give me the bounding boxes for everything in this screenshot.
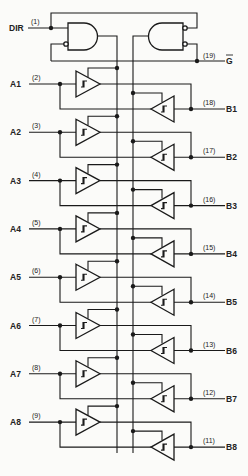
b-port-label: B7 bbox=[226, 394, 237, 404]
b-port-label: B5 bbox=[226, 297, 237, 307]
inverter-bubble bbox=[183, 42, 187, 46]
a-port-label: A4 bbox=[10, 224, 21, 234]
b-port-label: B3 bbox=[226, 201, 237, 211]
inverter-bubble bbox=[64, 42, 68, 46]
channels: A1(2)(18)B1A2(3)(17)B2A3(4)(16)B3A4(5)(1… bbox=[10, 66, 237, 460]
b-pin-number: (17) bbox=[203, 147, 215, 155]
a-pin-number: (2) bbox=[32, 74, 41, 82]
a-pin-number: (4) bbox=[32, 171, 41, 179]
a-pin-number: (5) bbox=[32, 219, 41, 227]
channel-6: A6(7)(13)B6 bbox=[10, 307, 237, 363]
a-port-label: A6 bbox=[10, 321, 21, 331]
and-gate-a-to-b bbox=[68, 23, 97, 50]
a-port-label: A5 bbox=[10, 272, 21, 282]
a-port-label: A8 bbox=[10, 417, 21, 427]
a-pin-number: (3) bbox=[32, 122, 41, 130]
a-port-label: A3 bbox=[10, 176, 21, 186]
b-port-label: B4 bbox=[226, 249, 237, 259]
b-pin-number: (16) bbox=[203, 196, 215, 204]
channel-2: A2(3)(17)B2 bbox=[10, 114, 237, 170]
channel-7: A7(8)(12)B7 bbox=[10, 356, 237, 412]
b-port-label: B2 bbox=[226, 152, 237, 162]
a-pin-number: (8) bbox=[32, 364, 41, 372]
a-port-label: A7 bbox=[10, 369, 21, 379]
channel-1: A1(2)(18)B1 bbox=[10, 66, 237, 122]
channel-8: A8(9)(11)B8 bbox=[10, 404, 237, 460]
dir-pin: (1) bbox=[31, 18, 40, 26]
a-port-label: A2 bbox=[10, 127, 21, 137]
b-pin-number: (11) bbox=[203, 437, 215, 445]
b-port-label: B1 bbox=[226, 104, 237, 114]
g-pin: (19) bbox=[203, 52, 215, 60]
dir-label: DIR bbox=[9, 23, 24, 33]
and-gate-b-to-a bbox=[149, 23, 183, 50]
b-pin-number: (18) bbox=[203, 99, 215, 107]
a-port-label: A1 bbox=[10, 79, 21, 89]
b-pin-number: (14) bbox=[203, 292, 215, 300]
a-pin-number: (9) bbox=[32, 412, 41, 420]
a-pin-number: (6) bbox=[32, 267, 41, 275]
channel-4: A4(5)(15)B4 bbox=[10, 211, 237, 267]
b-port-label: B6 bbox=[226, 346, 237, 356]
channel-3: A3(4)(16)B3 bbox=[10, 162, 237, 218]
transceiver-schematic: DIR (1) (19) G A1(2)(18)B1A2(3)(17)B2A3(… bbox=[0, 0, 248, 476]
b-port-label: B8 bbox=[226, 442, 237, 452]
inverter-bubble bbox=[183, 26, 187, 30]
b-pin-number: (13) bbox=[203, 341, 215, 349]
b-pin-number: (12) bbox=[203, 389, 215, 397]
g-label: G bbox=[226, 56, 233, 66]
control-section: DIR (1) (19) G bbox=[9, 13, 233, 453]
channel-5: A5(6)(14)B5 bbox=[10, 259, 237, 315]
b-pin-number: (15) bbox=[203, 244, 215, 252]
a-pin-number: (7) bbox=[32, 316, 41, 324]
